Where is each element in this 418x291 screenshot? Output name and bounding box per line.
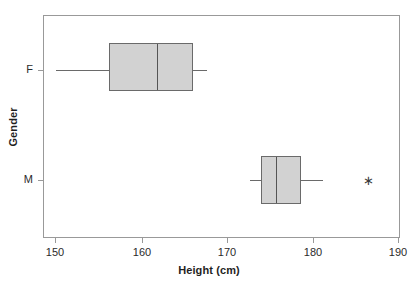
box-m: [261, 156, 301, 204]
boxplot-figure: Gender F M 150 160 170 180 190 Height (c…: [0, 0, 418, 291]
outlier-marker-m: ∗: [363, 174, 374, 187]
box-f: [109, 43, 193, 91]
y-axis-title-wrapper: Gender: [5, 15, 21, 238]
y-tick-label-m: M: [0, 173, 33, 186]
x-tick-label-190: 190: [378, 246, 418, 259]
x-tick-180: [313, 238, 314, 243]
whisker-low-m: [250, 180, 261, 181]
plot-area: [43, 15, 400, 238]
x-tick-label-170: 170: [207, 246, 247, 259]
x-tick-label-160: 160: [122, 246, 162, 259]
y-tick-m: [38, 180, 43, 181]
x-axis-title: Height (cm): [0, 264, 418, 276]
whisker-low-f: [56, 70, 109, 71]
whisker-high-m: [301, 180, 323, 181]
x-tick-190: [398, 238, 399, 243]
x-tick-160: [142, 238, 143, 243]
y-tick-label-f: F: [0, 63, 33, 76]
y-tick-f: [38, 70, 43, 71]
median-m: [276, 157, 277, 203]
y-axis-title: Gender: [7, 107, 19, 146]
whisker-high-f: [193, 70, 207, 71]
x-tick-label-150: 150: [35, 246, 75, 259]
x-tick-150: [55, 238, 56, 243]
median-f: [157, 44, 158, 90]
x-tick-label-180: 180: [293, 246, 333, 259]
x-tick-170: [227, 238, 228, 243]
